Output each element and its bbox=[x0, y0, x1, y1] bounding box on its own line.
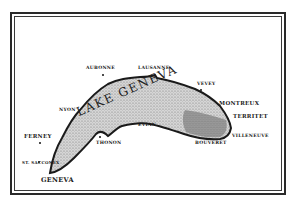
place-label-thonon: THONON bbox=[96, 141, 121, 146]
place-label-villeneuve: VILLENEUVE bbox=[232, 134, 269, 139]
place-label-geneva: GENEVA bbox=[41, 177, 74, 184]
place-label-montreux: MONTREUX bbox=[219, 101, 259, 107]
lake-geneva-map: LAKE GENEVA AUBONNE LAUSANNE VEVEY MONTR… bbox=[0, 0, 293, 207]
vevey-marker bbox=[200, 89, 202, 91]
place-label-vevey: VEVEY bbox=[197, 82, 216, 87]
aubonne-marker bbox=[102, 74, 104, 76]
thonon-marker bbox=[99, 136, 101, 138]
place-label-ferney: FERNEY bbox=[24, 134, 52, 140]
ferney-marker bbox=[39, 142, 41, 144]
place-label-evian: EVIAN bbox=[138, 123, 156, 128]
place-label-sacconex: ST. SACCONEX bbox=[22, 161, 59, 165]
place-label-nyon: NYON bbox=[59, 108, 76, 113]
place-label-aubonne: AUBONNE bbox=[86, 66, 115, 71]
place-label-territet: TERRITET bbox=[233, 114, 268, 120]
place-label-lausanne: LAUSANNE bbox=[138, 66, 169, 71]
place-label-bouveret: BOUVERET bbox=[195, 141, 227, 146]
